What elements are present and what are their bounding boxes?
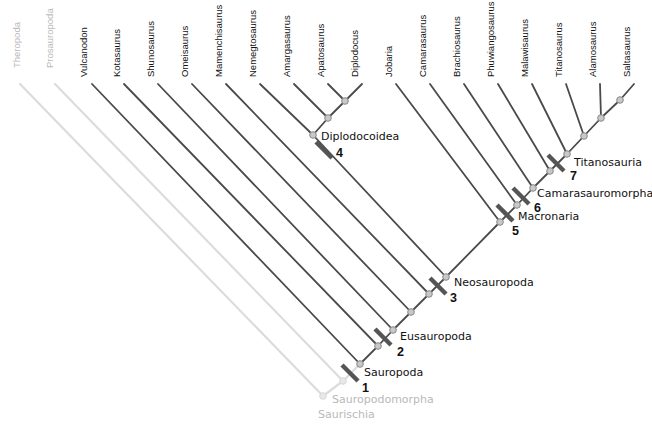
taxon-label-shunosaurus: Shunosaurus bbox=[145, 21, 156, 77]
node-m6 bbox=[581, 133, 588, 140]
node-s1 bbox=[357, 361, 364, 368]
taxon-label-diplodocus: Diplodocus bbox=[349, 30, 360, 77]
branch-backbone bbox=[601, 100, 620, 118]
taxon-label-kotasaurus: Kotasaurus bbox=[111, 29, 122, 77]
clade-label-eusauropoda: Eusauropoda bbox=[400, 330, 472, 343]
branch-backbone bbox=[411, 294, 429, 312]
branch-backbone bbox=[446, 222, 500, 277]
node-m8 bbox=[617, 97, 624, 104]
branch-malawisaurus bbox=[532, 84, 567, 154]
taxon-label-mamenchisaurus: Mamenchisaurus bbox=[213, 4, 224, 77]
branch-amargasaurus bbox=[294, 84, 328, 118]
node-saurischia bbox=[320, 393, 327, 400]
node-s5 bbox=[426, 291, 433, 298]
node-dipB bbox=[325, 115, 332, 122]
clade-label-camarasauromorpha: Camarasauromorpha bbox=[537, 187, 652, 200]
clade-label-sauropodomorpha: Sauropodomorpha bbox=[332, 393, 434, 406]
node-dipC bbox=[342, 98, 349, 105]
branch-backbone bbox=[393, 312, 411, 330]
node-s6 bbox=[443, 274, 450, 281]
branch-brachiosaurus bbox=[464, 84, 533, 188]
branch-alamosaurus bbox=[600, 84, 601, 118]
node-sauropodomorpha bbox=[340, 378, 347, 385]
synapomorphy-number-7: 7 bbox=[570, 169, 577, 183]
node-s3 bbox=[390, 327, 397, 334]
clade-label-titanosauria: Titanosauria bbox=[573, 156, 642, 169]
cladogram: TheropodaProsauropodaVulcanodonKotasauru… bbox=[0, 0, 652, 435]
taxon-label-brachiosaurus: Brachiosaurus bbox=[451, 16, 462, 77]
branch-phuwiangosaurus bbox=[498, 84, 550, 171]
clade-label-diplodocoidea: Diplodocoidea bbox=[321, 130, 399, 143]
taxon-label-nemegtosaurus: Nemegtosaurus bbox=[247, 10, 258, 77]
taxon-label-saltasaurus: Saltasaurus bbox=[621, 27, 632, 77]
taxon-label-apatosaurus: Apatosaurus bbox=[315, 23, 326, 77]
synapomorphy-number-3: 3 bbox=[450, 291, 457, 305]
clade-label-sauropoda: Sauropoda bbox=[364, 366, 423, 379]
branch-titanosaurus bbox=[566, 84, 584, 136]
taxon-label-theropoda: Theropoda bbox=[11, 21, 22, 68]
taxon-label-malawisaurus: Malawisaurus bbox=[519, 19, 530, 77]
node-dipA bbox=[310, 132, 317, 139]
clade-label-saurischia: Saurischia bbox=[318, 408, 375, 421]
node-s4 bbox=[408, 309, 415, 316]
node-m7 bbox=[598, 115, 605, 122]
node-m3 bbox=[530, 185, 537, 192]
branch-jobaria bbox=[396, 84, 500, 222]
taxon-labels: TheropodaProsauropodaVulcanodonKotasauru… bbox=[11, 1, 632, 77]
taxon-label-camarasaurus: Camarasaurus bbox=[417, 14, 428, 77]
taxon-label-alamosaurus: Alamosaurus bbox=[587, 21, 598, 77]
node-m5 bbox=[564, 151, 571, 158]
clade-label-macronaria: Macronaria bbox=[518, 210, 579, 223]
node-m2 bbox=[514, 202, 521, 209]
taxon-label-vulcanodon: Vulcanodon bbox=[78, 27, 89, 77]
bar-4-diplodocoidea bbox=[316, 142, 332, 158]
branch-theropoda bbox=[20, 84, 323, 396]
node-m4 bbox=[547, 168, 554, 175]
synapomorphy-number-4: 4 bbox=[336, 146, 343, 160]
taxon-label-amargasaurus: Amargasaurus bbox=[281, 15, 292, 77]
clade-label-neosauropoda: Neosauropoda bbox=[454, 276, 534, 289]
taxon-label-prosauropoda: Prosauropoda bbox=[44, 8, 55, 68]
clade-labels: SaurischiaSauropodomorphaSauropoda1Eusau… bbox=[318, 130, 652, 421]
node-s2 bbox=[375, 343, 382, 350]
branch-omeisaurus bbox=[192, 84, 411, 312]
taxon-label-omeisaurus: Omeisaurus bbox=[179, 26, 190, 77]
branch-backbone bbox=[360, 346, 378, 364]
synapomorphy-number-1: 1 bbox=[362, 381, 369, 395]
synapomorphy-number-5: 5 bbox=[512, 224, 519, 238]
taxon-label-titanosaurus: Titanosaurus bbox=[553, 22, 564, 77]
node-mac bbox=[497, 219, 504, 226]
taxon-label-phuwiangosaurus: Phuwiangosaurus bbox=[485, 1, 496, 77]
synapomorphy-number-6: 6 bbox=[534, 201, 541, 215]
synapomorphy-number-2: 2 bbox=[397, 345, 404, 359]
taxon-label-jobaria: Jobaria bbox=[383, 45, 394, 77]
branch-shunosaurus bbox=[158, 84, 393, 330]
branch-kotasaurus bbox=[124, 84, 378, 346]
